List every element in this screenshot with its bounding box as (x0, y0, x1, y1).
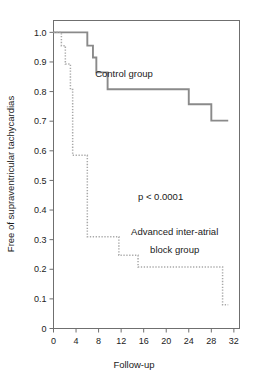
y-tick-label-0: 0 (41, 324, 46, 334)
y-axis-ticks: 00.10.20.30.40.50.60.70.80.91.0 (34, 28, 54, 334)
x-tick-label-4: 16 (139, 336, 149, 346)
advanced-group-label-line2: block group (150, 244, 199, 255)
p-value-label: p < 0.0001 (138, 191, 183, 202)
y-tick-label-3: 0.3 (34, 235, 47, 245)
control-group-label: Control group (95, 68, 153, 79)
x-axis-title: Follow-up (113, 359, 154, 370)
x-tick-label-2: 8 (96, 336, 101, 346)
y-axis-title: Free of supraventricular tachycardias (5, 96, 16, 253)
y-tick-label-6: 0.6 (34, 146, 47, 156)
x-tick-label-6: 24 (184, 336, 194, 346)
x-tick-label-1: 4 (74, 336, 79, 346)
y-tick-label-1: 0.1 (34, 294, 47, 304)
y-tick-label-5: 0.5 (34, 176, 47, 186)
x-tick-label-7: 28 (206, 336, 216, 346)
x-tick-label-8: 32 (229, 336, 239, 346)
kaplan-meier-figure: 00.10.20.30.40.50.60.70.80.91.0 04812162… (0, 0, 257, 386)
y-tick-label-4: 0.4 (34, 205, 47, 215)
plot-frame (54, 21, 240, 329)
x-axis-ticks: 048121620242832 (51, 329, 239, 346)
y-tick-label-2: 0.2 (34, 264, 47, 274)
y-tick-label-8: 0.8 (34, 87, 47, 97)
x-tick-label-5: 20 (161, 336, 171, 346)
survival-curve-plot: 00.10.20.30.40.50.60.70.80.91.0 04812162… (0, 0, 257, 386)
y-tick-label-9: 0.9 (34, 57, 47, 67)
advanced-group-label-line1: Advanced inter-atrial (131, 226, 218, 237)
y-tick-label-7: 0.7 (34, 116, 47, 126)
x-tick-label-3: 12 (116, 336, 126, 346)
chart-annotations: Control groupp < 0.0001Advanced inter-at… (95, 68, 218, 255)
x-tick-label-0: 0 (51, 336, 56, 346)
y-tick-label-10: 1.0 (34, 28, 47, 38)
